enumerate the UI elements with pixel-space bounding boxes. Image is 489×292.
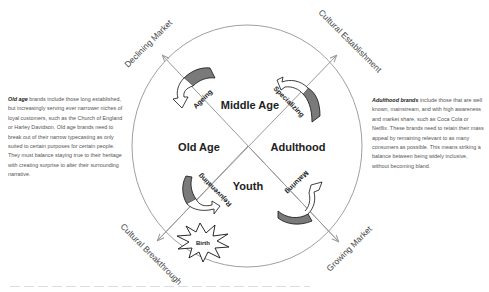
old-age-description-body: brands include those long established, b… xyxy=(8,96,122,177)
transition-label-maturing: Maturing xyxy=(283,169,310,196)
transition-label-birth: Birth xyxy=(196,240,210,246)
axis-declining-breakthrough xyxy=(162,55,163,56)
axis-label-cultural-establishment: Cultural Establishment xyxy=(317,7,385,75)
axis-label-cultural-breakthrough: Cultural Breakthrough xyxy=(119,221,185,287)
stage-label-middle-age: Middle Age xyxy=(221,99,279,111)
axis-line-br xyxy=(248,146,338,241)
axis-label-growing-market: Growing Market xyxy=(324,223,374,273)
stage-label-adulthood: Adulthood xyxy=(271,141,326,153)
adulthood-description-body: include those that are well known, mains… xyxy=(372,97,484,169)
old-age-description-title: Old age xyxy=(8,96,28,102)
adulthood-description-title: Adulthood brands xyxy=(372,97,418,103)
adulthood-description: Adulthood brands include those that are … xyxy=(372,96,484,171)
axis-label-declining-market: Declining Market xyxy=(122,17,174,69)
old-age-description: Old age brands include those long establ… xyxy=(8,95,123,180)
stage-label-youth: Youth xyxy=(233,180,264,192)
axis-line-bl xyxy=(158,146,248,240)
stage-label-old-age: Old Age xyxy=(178,141,220,153)
footer-faint-text xyxy=(10,286,310,287)
